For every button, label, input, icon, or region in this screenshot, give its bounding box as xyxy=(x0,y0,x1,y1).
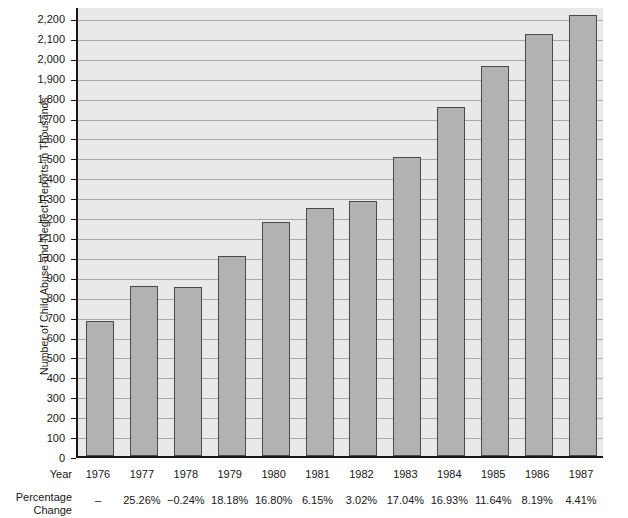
year-row-label: Year xyxy=(0,468,72,480)
bar xyxy=(349,201,377,456)
y-axis-tick xyxy=(71,80,76,81)
y-axis-tick-label: 1,400 xyxy=(0,174,65,185)
y-axis-tick-label: 1,100 xyxy=(0,233,65,244)
bar xyxy=(525,34,553,456)
y-axis-tick-label: 2,000 xyxy=(0,54,65,65)
y-axis-tick xyxy=(71,179,76,180)
y-axis-tick xyxy=(71,438,76,439)
y-axis-tick-label: 1,600 xyxy=(0,134,65,145)
data-table: Year Percentage Change 1976–197725.26%19… xyxy=(0,458,628,518)
y-axis-tick xyxy=(71,159,76,160)
y-axis-tick-label: 400 xyxy=(0,373,65,384)
bar xyxy=(481,66,509,456)
y-axis-tick xyxy=(71,120,76,121)
bar xyxy=(437,107,465,456)
y-axis-tick-label: 300 xyxy=(0,393,65,404)
y-axis-tick xyxy=(71,60,76,61)
y-axis-tick-label: 1,200 xyxy=(0,214,65,225)
gridline xyxy=(78,20,603,21)
bar xyxy=(306,208,334,456)
y-axis-tick-label: 500 xyxy=(0,353,65,364)
y-axis-tick xyxy=(71,319,76,320)
y-axis-tick xyxy=(71,299,76,300)
y-axis-tick xyxy=(71,199,76,200)
y-axis-tick xyxy=(71,100,76,101)
y-axis-tick xyxy=(71,219,76,220)
plot-inner xyxy=(78,8,603,456)
percentage-change-label-line2: Change xyxy=(33,504,72,516)
y-axis-tick-label: 900 xyxy=(0,273,65,284)
y-axis-tick xyxy=(71,279,76,280)
y-axis-tick-label: 2,200 xyxy=(0,14,65,25)
y-axis-tick-label: 1,800 xyxy=(0,94,65,105)
y-axis-tick-label: 2,100 xyxy=(0,34,65,45)
bar xyxy=(393,157,421,456)
y-axis-tick xyxy=(71,358,76,359)
y-axis-tick-label: 600 xyxy=(0,333,65,344)
percentage-change-cell: 4.41% xyxy=(551,494,611,506)
bar xyxy=(86,321,114,456)
bar xyxy=(569,15,597,456)
y-axis-tick-label: 1,900 xyxy=(0,74,65,85)
bar xyxy=(174,287,202,456)
y-axis-tick xyxy=(71,40,76,41)
y-axis-tick xyxy=(71,239,76,240)
y-axis-tick-label: 200 xyxy=(0,413,65,424)
percentage-change-row-label: Percentage Change xyxy=(0,491,72,517)
y-axis-tick xyxy=(71,139,76,140)
y-axis-tick-label: 1,000 xyxy=(0,253,65,264)
y-axis-tick xyxy=(71,339,76,340)
y-axis-tick xyxy=(71,398,76,399)
y-axis-tick-label: 1,500 xyxy=(0,154,65,165)
bar-chart-figure: Number of Child Abuse and Neglect Report… xyxy=(0,0,628,518)
year-cell: 1987 xyxy=(551,468,611,480)
y-axis-tick-label: 800 xyxy=(0,293,65,304)
y-axis-tick-label: 1,700 xyxy=(0,114,65,125)
bar xyxy=(130,286,158,456)
y-axis-tick-label: 100 xyxy=(0,433,65,444)
bar xyxy=(218,256,246,456)
y-axis-tick xyxy=(71,259,76,260)
bar xyxy=(262,222,290,456)
plot-area xyxy=(76,8,603,458)
y-axis-tick-label: 1,300 xyxy=(0,194,65,205)
y-axis-tick xyxy=(71,20,76,21)
y-axis-tick-label: 700 xyxy=(0,313,65,324)
y-axis-tick xyxy=(71,378,76,379)
percentage-change-label-line1: Percentage xyxy=(16,491,72,503)
y-axis-tick xyxy=(71,418,76,419)
